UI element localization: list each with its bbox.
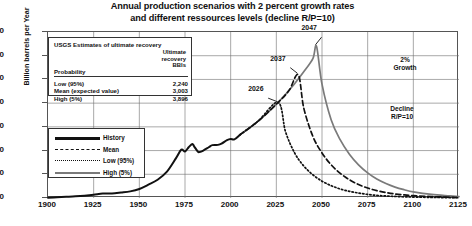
y-tick-label: 50 — [0, 73, 4, 82]
usgs-row-value: 3,896 — [173, 95, 188, 102]
peak-label-2026: 2026 — [248, 85, 263, 92]
annotation-growth-line-1: 2% — [375, 56, 435, 64]
usgs-divider — [54, 76, 188, 77]
chart-title-line-1: Annual production scenarios with 2 perce… — [0, 1, 465, 13]
x-tick-label: 2100 — [392, 200, 432, 209]
annotation-growth-line-2: Growth — [375, 64, 435, 72]
annotation-growth: 2% Growth — [375, 56, 435, 72]
legend-item: High (5%) — [53, 167, 143, 179]
legend-item: Mean — [53, 144, 143, 156]
usgs-col-header-line-1: Ultimate — [138, 49, 186, 56]
usgs-col-header-line-2: recovery — [138, 56, 186, 63]
peak-arrow — [290, 68, 297, 74]
chart-legend: HistoryMeanLow (95%)High (5%) — [48, 128, 145, 178]
annotation-decline-line-2: R/P=10 — [372, 113, 432, 121]
x-tick-label: 1950 — [118, 200, 158, 209]
y-tick-label: 0 — [0, 192, 4, 201]
peak-arrow — [316, 37, 322, 44]
usgs-row: Low (95%)2,240 — [54, 80, 188, 87]
series-line — [240, 74, 459, 197]
usgs-estimates-box: USGS Estimates of ultimate recovery Ulti… — [48, 37, 192, 96]
usgs-column-header: Ultimate recovery BBls — [138, 49, 186, 69]
y-tick-label: 70 — [0, 26, 4, 35]
legend-label: History — [103, 134, 125, 141]
y-tick-label: 40 — [0, 97, 4, 106]
annotation-decline-line-1: Decline — [372, 105, 432, 113]
x-tick-label: 2125 — [438, 200, 472, 209]
legend-swatch — [55, 160, 100, 161]
usgs-row-label: Low (95%) — [54, 80, 84, 87]
y-tick-label: 20 — [0, 145, 4, 154]
y-tick-label: 60 — [0, 50, 4, 59]
x-tick-label: 1925 — [73, 200, 113, 209]
x-tick-label: 2000 — [210, 200, 250, 209]
peak-arrow — [268, 98, 277, 102]
legend-swatch — [55, 149, 100, 150]
usgs-row-value: 2,240 — [173, 80, 188, 87]
legend-item: Low (95%) — [53, 155, 143, 167]
x-tick-label: 2075 — [347, 200, 387, 209]
legend-label: Low (95%) — [103, 157, 134, 164]
y-axis-label: Billion barrels per Year — [22, 0, 31, 107]
legend-swatch — [55, 137, 100, 140]
usgs-probability-header: Probability — [54, 68, 86, 75]
y-tick-mark — [42, 197, 47, 198]
y-tick-label: 30 — [0, 121, 4, 130]
usgs-box-heading: USGS Estimates of ultimate recovery — [54, 41, 161, 48]
y-tick-label: 10 — [0, 168, 4, 177]
chart-title: Annual production scenarios with 2 perce… — [0, 1, 465, 24]
usgs-col-header-line-3: BBls — [138, 62, 186, 69]
usgs-row-value: 3,003 — [173, 87, 188, 94]
x-tick-label: 1975 — [164, 200, 204, 209]
x-tick-label: 2025 — [255, 200, 295, 209]
usgs-row-label: Mean (expected value) — [54, 87, 119, 94]
legend-label: Mean — [103, 146, 119, 153]
chart-title-line-2: and different ressources levels (decline… — [0, 13, 465, 25]
annotation-decline: Decline R/P=10 — [372, 105, 432, 121]
legend-label: High (5%) — [103, 169, 132, 176]
peak-label-2047: 2047 — [302, 24, 317, 31]
usgs-row: High (5%)3,896 — [54, 95, 188, 102]
legend-item: History — [53, 132, 143, 144]
peak-label-2037: 2037 — [270, 55, 285, 62]
usgs-row: Mean (expected value)3,003 — [54, 87, 188, 94]
usgs-row-label: High (5%) — [54, 95, 82, 102]
x-tick-label: 1900 — [27, 200, 67, 209]
x-tick-label: 2050 — [301, 200, 341, 209]
legend-swatch — [55, 172, 100, 174]
